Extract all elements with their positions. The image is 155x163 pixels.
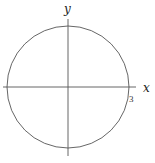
- x-axis-label: x: [143, 81, 150, 95]
- diagram-canvas: y x 3: [0, 0, 155, 163]
- radius-tick-label: 3: [129, 94, 134, 104]
- y-axis-label: y: [63, 2, 71, 16]
